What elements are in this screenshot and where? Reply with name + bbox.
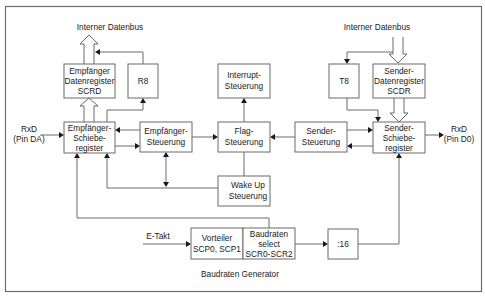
block-label: Empfänger- [68, 123, 112, 133]
arrowhead [140, 98, 146, 103]
arrowhead [95, 49, 100, 55]
block-tx-shift-register: Sender- Schiebe- register [373, 122, 425, 153]
block-label: SCRD [78, 86, 102, 96]
block-prescaler: Vorteiler SCP0, SCP1 [191, 228, 243, 259]
rxd-out-pin-label: (Pin D0) [444, 134, 475, 144]
arrowhead [375, 117, 381, 122]
block-tx-control: Sender- Steuerung [295, 122, 347, 152]
block-label: Datenregister [65, 76, 115, 86]
bus-to-t8-line [347, 52, 393, 60]
block-label: R8 [138, 76, 149, 86]
r8-to-bus-line [98, 52, 143, 64]
arrowhead [323, 241, 328, 247]
wake-to-shift-line [107, 157, 218, 188]
baud-generator-label: Baudraten Generator [201, 269, 279, 279]
block-label: Steuerung [147, 137, 186, 147]
internal-bus-label-right: Interner Datenbus [344, 22, 410, 32]
block-label: Schiebe- [73, 133, 106, 143]
bus-arrow-in-right [389, 37, 407, 63]
arrowhead [344, 59, 350, 64]
arrowhead [396, 153, 402, 158]
block-label: Flag- [235, 126, 254, 136]
block-label: Wake Up [231, 180, 265, 190]
block-baud-select: Baudraten select SCR0-SCR2 [243, 228, 295, 259]
block-scrd: Empfänger Datenregister SCRD [64, 64, 115, 98]
bus-arrow-shift-to-scrd [80, 98, 98, 122]
arrowhead [368, 127, 373, 133]
block-label: Vorteiler [202, 233, 233, 243]
arrowhead [115, 127, 120, 133]
block-divide-16: :16 [328, 229, 358, 259]
arrowhead [163, 152, 169, 157]
block-label: Datenregister [374, 76, 424, 86]
block-label: Baudraten [250, 229, 289, 239]
block-label: SCDR [387, 86, 411, 96]
block-label: SCR0-SCR2 [245, 249, 292, 259]
rxd-in-label: RxD [21, 124, 37, 134]
block-label: Sender- [384, 123, 414, 133]
arrowhead [104, 153, 110, 158]
arrowhead [270, 134, 275, 140]
bus-arrow-scdr-to-shift [390, 98, 408, 122]
block-label: T8 [339, 76, 349, 86]
t8-to-txshift-line [347, 98, 378, 118]
arrowhead [241, 98, 247, 103]
block-label: SCP0, SCP1 [193, 244, 241, 254]
internal-bus-label-left: Interner Datenbus [77, 22, 143, 32]
block-label: Steuerung [225, 137, 264, 147]
block-label: Schiebe- [383, 133, 416, 143]
arrowhead [163, 182, 169, 187]
arrowhead [186, 241, 191, 247]
sci-block-diagram: Empfänger Datenregister SCRD R8 Empfänge… [0, 0, 485, 298]
block-label: register [385, 143, 413, 153]
block-interrupt-control: Interrupt- Steuerung [218, 64, 270, 98]
arrowhead [213, 134, 218, 140]
block-label: Empfänger- [144, 126, 188, 136]
e-clock-label: E-Takt [146, 231, 170, 241]
block-label: Sender- [306, 126, 336, 136]
rxd-in-pin-label: (Pin DA) [13, 134, 45, 144]
block-label: Empfänger [69, 66, 110, 76]
block-label: select [258, 239, 280, 249]
block-flag-control: Flag- Steuerung [218, 122, 270, 152]
div16-to-txshift-line [358, 157, 399, 244]
block-r8: R8 [128, 64, 158, 98]
block-label: Steuerung [225, 81, 264, 91]
block-scdr: Sender- Datenregister SCDR [373, 64, 425, 98]
block-label: Sender- [384, 66, 414, 76]
block-label: :16 [337, 239, 349, 249]
arrowhead [347, 143, 352, 149]
block-label: Interrupt- [227, 70, 261, 80]
arrowhead [135, 143, 140, 149]
rxd-out-label: RxD [451, 124, 467, 134]
block-wakeup-control: Wake Up Steuerung [218, 176, 270, 206]
shift-to-r8-line [107, 102, 143, 122]
block-label: register [76, 143, 104, 153]
block-rx-shift-register: Empfänger- Schiebe- register [64, 122, 115, 153]
bus-arrow-out-left [80, 35, 98, 64]
block-rx-control: Empfänger- Steuerung [140, 122, 192, 152]
block-t8: T8 [329, 64, 359, 98]
arrowhead [74, 153, 80, 158]
arrowhead [59, 132, 64, 138]
block-label: Steuerung [229, 191, 268, 201]
block-label: Steuerung [302, 137, 341, 147]
